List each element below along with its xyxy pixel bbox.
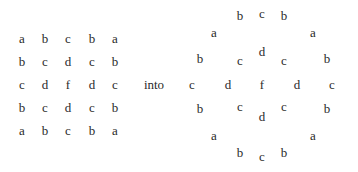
diamond-letter: c	[329, 78, 335, 91]
diamond-letter: b	[197, 52, 204, 65]
grid-letter: a	[19, 32, 25, 45]
grid-letter: c	[42, 101, 48, 114]
grid-letter: d	[89, 78, 96, 91]
grid-letter: d	[42, 78, 49, 91]
diamond-letter: c	[281, 100, 287, 113]
grid-letter: a	[112, 32, 118, 45]
diamond-letter: b	[281, 146, 288, 159]
grid-letter: a	[112, 124, 118, 137]
diamond-letter: d	[225, 78, 232, 91]
diamond-letter: b	[324, 52, 331, 65]
grid-letter: c	[42, 55, 48, 68]
diamond-letter: c	[259, 7, 265, 20]
grid-letter: d	[65, 55, 72, 68]
grid-letter: b	[89, 124, 96, 137]
diamond-letter: a	[310, 129, 316, 142]
grid-letter: c	[65, 124, 71, 137]
diamond-letter: c	[237, 100, 243, 113]
grid-letter: c	[89, 55, 95, 68]
grid-letter: d	[65, 101, 72, 114]
grid-letter: b	[19, 55, 26, 68]
grid-letter: a	[19, 124, 25, 137]
diamond-letter: b	[324, 102, 331, 115]
grid-letter: c	[65, 32, 71, 45]
diamond-letter: b	[197, 102, 204, 115]
grid-letter: b	[19, 101, 26, 114]
diamond-letter: d	[259, 110, 266, 123]
diamond-letter: c	[259, 150, 265, 163]
grid-letter: b	[112, 55, 119, 68]
grid-letter: c	[19, 78, 25, 91]
diamond-letter: b	[237, 9, 244, 22]
grid-letter: b	[112, 101, 119, 114]
diamond-letter: d	[294, 78, 301, 91]
into-label: into	[144, 78, 164, 91]
grid-letter: b	[89, 32, 96, 45]
diamond-letter: b	[237, 146, 244, 159]
grid-letter: b	[42, 124, 49, 137]
diamond-letter: c	[237, 54, 243, 67]
diamond-letter: a	[211, 26, 217, 39]
diamond-letter: f	[260, 78, 264, 91]
diamond-letter: c	[281, 54, 287, 67]
diamond-letter: c	[189, 78, 195, 91]
diamond-letter: b	[281, 9, 288, 22]
diamond-letter: a	[211, 129, 217, 142]
grid-letter: c	[89, 101, 95, 114]
grid-letter: b	[42, 32, 49, 45]
diamond-letter: d	[259, 45, 266, 58]
diamond-letter: a	[310, 26, 316, 39]
grid-letter: f	[66, 78, 70, 91]
grid-letter: c	[112, 78, 118, 91]
